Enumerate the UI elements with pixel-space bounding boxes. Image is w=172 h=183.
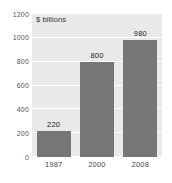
y-axis-tick-label: 1200 xyxy=(1,11,29,18)
x-axis-tick-label: 2000 xyxy=(75,160,119,169)
chart-unit-label: $ billions xyxy=(36,15,66,24)
y-axis: 020040060080010001200 xyxy=(0,14,29,157)
plot-area: 220800980 xyxy=(32,14,162,157)
bar-value-label: 220 xyxy=(32,121,76,129)
y-axis-tick-label: 400 xyxy=(1,106,29,113)
y-axis-tick-label: 800 xyxy=(1,58,29,65)
x-axis-tick-label: 2008 xyxy=(118,160,162,169)
gridline xyxy=(32,13,162,14)
bar xyxy=(123,40,157,157)
y-axis-tick-label: 600 xyxy=(1,82,29,89)
y-axis-tick-label: 0 xyxy=(1,154,29,161)
y-axis-tick-label: 200 xyxy=(1,130,29,137)
bar-chart: 020040060080010001200 220800980 $ billio… xyxy=(0,0,172,183)
y-axis-tick-label: 1000 xyxy=(1,34,29,41)
bar xyxy=(80,62,114,157)
x-axis-tick-label: 1987 xyxy=(32,160,76,169)
bar xyxy=(37,131,71,157)
bar-value-label: 800 xyxy=(75,52,119,60)
x-axis: 198720002008 xyxy=(32,160,162,172)
bar-value-label: 980 xyxy=(118,30,162,38)
